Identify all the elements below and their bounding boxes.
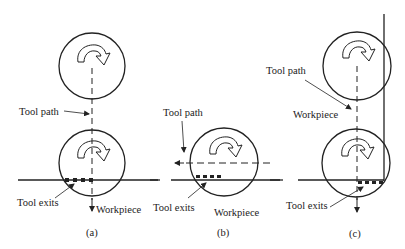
tool-exits-leader xyxy=(188,183,206,198)
workpiece-label: Workpiece xyxy=(293,109,339,120)
caption-c: (c) xyxy=(349,228,361,240)
tool-path-label: Tool path xyxy=(19,106,60,117)
panel-c: Tool path Workpiece Tool exits (c) xyxy=(266,14,391,240)
tool-exits-label: Tool exits xyxy=(17,197,59,208)
panel-a: Tool path Tool exits Workpiece (a) xyxy=(17,33,158,239)
rotation-arrow-icon xyxy=(342,139,374,159)
panel-b: Tool path Tool exits Workpiece (b) xyxy=(150,107,280,239)
tool-path-leader xyxy=(182,121,184,152)
rotation-arrow-icon xyxy=(343,41,375,61)
rotation-arrow-icon xyxy=(78,45,110,65)
caption-b: (b) xyxy=(217,227,230,239)
workpiece-label: Workpiece xyxy=(96,204,142,215)
rotation-arrow-icon xyxy=(210,137,242,157)
caption-a: (a) xyxy=(86,227,98,239)
tool-exit-marks xyxy=(196,175,221,178)
workpiece-label: Workpiece xyxy=(214,207,260,218)
tool-exits-label: Tool exits xyxy=(286,200,328,211)
tool-path-label: Tool path xyxy=(163,107,204,118)
rotation-arrow-icon xyxy=(78,141,110,161)
tool-path-label: Tool path xyxy=(266,65,307,76)
diagram-figure: Tool path Tool exits Workpiece (a) Tool … xyxy=(0,0,405,249)
tool-path-leader xyxy=(64,111,89,114)
tool-exits-label: Tool exits xyxy=(153,202,195,213)
tool-exit-marks xyxy=(358,181,383,184)
tool-exits-leader xyxy=(55,184,74,198)
